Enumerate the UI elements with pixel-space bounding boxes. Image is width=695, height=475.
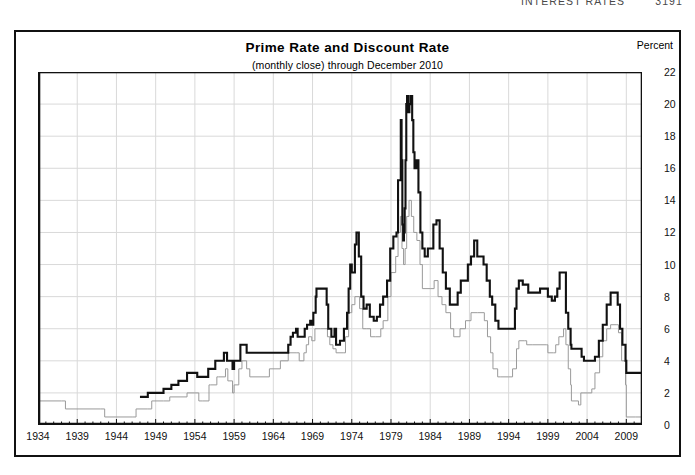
x-tick-label: 1999: [536, 430, 559, 442]
plot-background: [38, 72, 642, 425]
x-tick-label: 1984: [419, 430, 442, 442]
page-root: INTEREST RATES 3191 Prime Rate and Disco…: [0, 0, 695, 475]
y-tick-label: 4: [664, 356, 670, 366]
y-tick-label: 14: [664, 195, 676, 205]
x-tick-label: 1964: [262, 430, 285, 442]
chart-svg: [38, 72, 642, 425]
x-tick-label: 1949: [144, 430, 167, 442]
plot-area: [38, 72, 642, 425]
y-tick-label: 18: [664, 131, 676, 141]
y-tick-label: 8: [664, 292, 670, 302]
x-tick-label: 1979: [379, 430, 402, 442]
x-tick-label: 1974: [340, 430, 363, 442]
running-head-title: INTEREST RATES: [521, 0, 625, 7]
y-tick-label: 2: [664, 388, 670, 398]
y-tick-label: 6: [664, 324, 670, 334]
x-tick-label: 1934: [26, 430, 49, 442]
y-axis-tick-labels: 0246810121416182022: [664, 72, 694, 425]
x-tick-label: 1954: [183, 430, 206, 442]
x-tick-label: 1994: [497, 430, 520, 442]
x-axis-tick-labels: 1934193919441949195419591964196919741979…: [38, 430, 642, 446]
y-tick-label: 0: [664, 420, 670, 430]
y-tick-label: 20: [664, 99, 676, 109]
chart-title: Prime Rate and Discount Rate: [16, 40, 679, 55]
y-tick-label: 12: [664, 227, 676, 237]
chart-subtitle: (monthly close) through December 2010: [16, 59, 679, 71]
y-tick-label: 10: [664, 260, 676, 270]
x-tick-label: 1969: [301, 430, 324, 442]
running-head-page: 3191: [655, 0, 683, 7]
x-tick-label: 1939: [66, 430, 89, 442]
running-head: INTEREST RATES 3191: [521, 0, 683, 7]
x-tick-label: 1944: [105, 430, 128, 442]
y-axis-unit-label: Percent: [637, 39, 673, 51]
x-tick-label: 1959: [222, 430, 245, 442]
y-tick-label: 16: [664, 163, 676, 173]
x-tick-label: 2009: [615, 430, 638, 442]
y-tick-label: 22: [664, 67, 676, 77]
figure-frame: Prime Rate and Discount Rate (monthly cl…: [14, 30, 681, 457]
x-tick-label: 1989: [458, 430, 481, 442]
x-tick-label: 2004: [575, 430, 598, 442]
